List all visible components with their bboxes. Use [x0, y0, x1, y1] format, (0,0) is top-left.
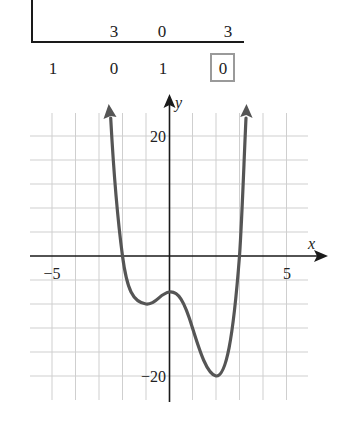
- graph-svg: y x −5 5 20 −20: [0, 90, 342, 427]
- remainder-value: 0: [219, 60, 228, 77]
- product-value: 0: [158, 23, 167, 40]
- division-bracket-vertical: [31, 0, 33, 43]
- polynomial-graph: y x −5 5 20 −20: [0, 90, 342, 427]
- x-tick-label: −5: [43, 265, 60, 282]
- y-axis-label: y: [173, 94, 183, 112]
- quotient-coefficient: 1: [49, 60, 58, 77]
- product-value: 3: [110, 23, 119, 40]
- curve-arrow-right-icon: [240, 104, 252, 118]
- x-tick-label: 5: [283, 265, 291, 282]
- x-axis-label: x: [307, 235, 315, 252]
- product-value: 3: [224, 23, 233, 40]
- quotient-coefficient: 1: [159, 60, 168, 77]
- polynomial-curve: [111, 118, 246, 376]
- quotient-coefficient: 0: [110, 60, 119, 77]
- synthetic-division: 3 0 3 1 0 1 0: [0, 0, 342, 90]
- division-bar: [31, 41, 244, 43]
- y-tick-label: −20: [141, 368, 166, 385]
- y-tick-label: 20: [150, 128, 166, 145]
- axes: [30, 104, 318, 402]
